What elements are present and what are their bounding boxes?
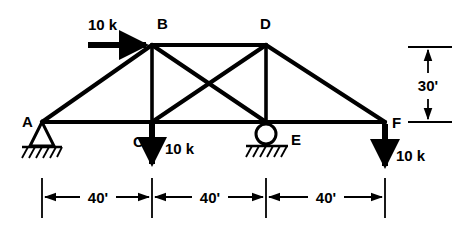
dim-label-bay2: 40' (200, 189, 220, 206)
member-top-chord-left (42, 45, 152, 122)
load-label-b: 10 k (88, 16, 118, 33)
dim-label-bay3: 40' (316, 189, 336, 206)
dim-label-bay1: 40' (88, 189, 108, 206)
truss-svg-canvas: A B C D E F 10 k 10 k 10 k 40' 40' 40' 3… (0, 0, 461, 232)
load-label-c: 10 k (165, 140, 195, 157)
roller-ground-hatching-icon (246, 146, 287, 157)
roller-circle-icon (256, 124, 276, 144)
node-label-a: A (22, 113, 33, 130)
node-label-f: F (392, 114, 401, 131)
member-top-chord-right (266, 45, 385, 122)
truss-diagram: A B C D E F 10 k 10 k 10 k 40' 40' 40' 3… (0, 0, 461, 232)
node-label-b: B (157, 15, 168, 32)
pin-triangle-icon (30, 122, 54, 146)
load-label-f: 10 k (396, 147, 426, 164)
dim-label-height: 30' (418, 77, 438, 94)
pin-ground-hatching-icon (22, 147, 62, 158)
truss-members (42, 45, 385, 122)
node-label-e: E (291, 131, 301, 148)
support-roller-e (246, 124, 288, 157)
node-label-d: D (260, 15, 271, 32)
node-label-c: C (133, 133, 144, 150)
